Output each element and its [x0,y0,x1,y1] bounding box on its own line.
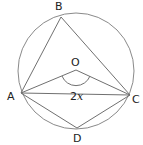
label-d: D [73,132,81,145]
label-o: O [71,56,80,69]
geometry-diagram: B O A C D 2x [0,0,143,145]
label-a: A [7,90,15,103]
angle-label: 2x [70,90,84,103]
circle [18,13,134,129]
label-b: B [55,0,63,13]
angle-arc [62,76,90,86]
label-c: C [132,93,140,106]
